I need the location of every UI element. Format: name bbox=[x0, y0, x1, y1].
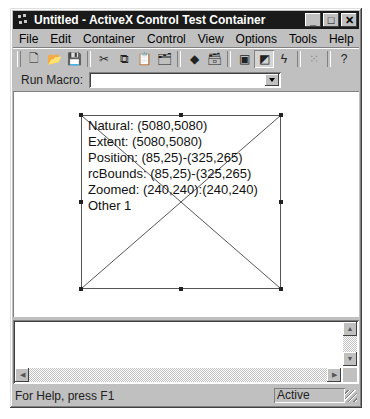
resize-handle[interactable] bbox=[279, 113, 283, 117]
status-state: Active bbox=[274, 388, 345, 403]
scrollbar-corner bbox=[343, 368, 357, 382]
toolbar-separator bbox=[177, 51, 181, 67]
chevron-down-icon[interactable] bbox=[265, 74, 279, 86]
resize-handle[interactable] bbox=[279, 200, 283, 204]
design-mode-icon[interactable]: ▣ bbox=[234, 50, 254, 68]
paste-icon[interactable]: 📋 bbox=[134, 50, 154, 68]
scroll-down-button[interactable]: ▼ bbox=[343, 352, 357, 366]
run-macro-label: Run Macro: bbox=[21, 73, 89, 87]
menu-options[interactable]: Options bbox=[230, 32, 283, 46]
control-info: Natural: (5080,5080) Extent: (5080,5080)… bbox=[88, 118, 258, 214]
window-title: Untitled - ActiveX Control Test Containe… bbox=[34, 13, 265, 27]
insert-object-icon[interactable]: 🗂 bbox=[154, 50, 174, 68]
close-icon: ✕ bbox=[345, 14, 354, 26]
new-icon[interactable]: 🗋 bbox=[24, 50, 44, 68]
resize-handle[interactable] bbox=[179, 287, 183, 291]
natural-line: Natural: (5080,5080) bbox=[88, 118, 258, 134]
other-line: Other 1 bbox=[88, 198, 258, 214]
copy-icon[interactable]: ⧉ bbox=[114, 50, 134, 68]
resize-handle[interactable] bbox=[79, 287, 83, 291]
menu-tools[interactable]: Tools bbox=[283, 32, 323, 46]
help-icon[interactable]: ? bbox=[334, 50, 354, 68]
save-icon[interactable]: 💾 bbox=[64, 50, 84, 68]
event-log-icon[interactable]: ϟ bbox=[274, 50, 294, 68]
resize-handle[interactable] bbox=[79, 200, 83, 204]
toolbar-separator bbox=[87, 51, 91, 67]
invoke-methods-icon[interactable]: ◆ bbox=[184, 50, 204, 68]
run-mode-icon[interactable]: ◩ bbox=[254, 50, 274, 68]
resize-handle[interactable] bbox=[179, 113, 183, 117]
menu-edit[interactable]: Edit bbox=[44, 32, 77, 46]
container-area[interactable]: Natural: (5080,5080) Extent: (5080,5080)… bbox=[13, 91, 359, 317]
properties-icon[interactable]: 🗃 bbox=[204, 50, 224, 68]
toolbar-separator bbox=[327, 51, 331, 67]
position-line: Position: (85,25)-(325,265) bbox=[88, 150, 258, 166]
extent-line: Extent: (5080,5080) bbox=[88, 134, 258, 150]
output-pane[interactable]: ▲ ▼ ◀ ▶ bbox=[13, 320, 359, 384]
resize-handle[interactable] bbox=[79, 113, 83, 117]
minimize-button[interactable]: _ bbox=[305, 13, 321, 27]
menu-bar: File Edit Container Control View Options… bbox=[13, 30, 359, 47]
horizontal-scrollbar[interactable]: ◀ ▶ bbox=[15, 368, 341, 382]
toolbar-grip[interactable] bbox=[17, 51, 21, 67]
resize-grip-icon[interactable] bbox=[345, 390, 357, 402]
toolbar-separator bbox=[297, 51, 301, 67]
scroll-up-button[interactable]: ▲ bbox=[343, 322, 357, 336]
toolbar: 🗋 📂 💾 ✂ ⧉ 📋 🗂 ◆ 🗃 ▣ ◩ ϟ ⁙ ? bbox=[13, 49, 359, 69]
vertical-scrollbar[interactable]: ▲ ▼ bbox=[343, 322, 357, 366]
toolbar-separator bbox=[227, 51, 231, 67]
grid-icon[interactable]: ⁙ bbox=[304, 50, 324, 68]
minimize-icon: _ bbox=[310, 14, 316, 26]
status-bar: For Help, press F1 Active bbox=[13, 387, 359, 404]
scroll-right-button[interactable]: ▶ bbox=[327, 368, 341, 382]
resize-handle[interactable] bbox=[279, 287, 283, 291]
status-message: For Help, press F1 bbox=[13, 389, 274, 403]
cut-icon[interactable]: ✂ bbox=[94, 50, 114, 68]
open-icon[interactable]: 📂 bbox=[44, 50, 64, 68]
run-macro-combo[interactable] bbox=[89, 72, 281, 88]
menu-container[interactable]: Container bbox=[77, 32, 141, 46]
menu-view[interactable]: View bbox=[192, 32, 230, 46]
close-button[interactable]: ✕ bbox=[341, 13, 357, 27]
app-window: Untitled - ActiveX Control Test Containe… bbox=[10, 8, 362, 408]
menu-file[interactable]: File bbox=[13, 32, 44, 46]
maximize-button[interactable]: □ bbox=[323, 13, 339, 27]
macro-bar: Run Macro: bbox=[13, 70, 359, 90]
scroll-left-button[interactable]: ◀ bbox=[15, 368, 29, 382]
activex-control[interactable]: Natural: (5080,5080) Extent: (5080,5080)… bbox=[81, 115, 281, 289]
title-bar[interactable]: Untitled - ActiveX Control Test Containe… bbox=[13, 11, 359, 29]
rcbounds-line: rcBounds: (85,25)-(325,265) bbox=[88, 166, 258, 182]
menu-control[interactable]: Control bbox=[141, 32, 192, 46]
menu-help[interactable]: Help bbox=[323, 32, 360, 46]
app-icon[interactable] bbox=[16, 13, 30, 27]
zoomed-line: Zoomed: (240,240):(240,240) bbox=[88, 182, 258, 198]
maximize-icon: □ bbox=[328, 14, 335, 26]
